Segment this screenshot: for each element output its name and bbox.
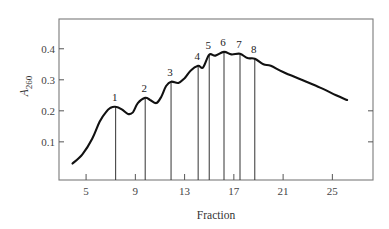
right-axis-ticks xyxy=(368,111,373,142)
x-tick-label: 13 xyxy=(179,185,191,197)
x-axis-ticks: 5913172125 xyxy=(83,174,338,197)
peak-labels: 12345678 xyxy=(112,36,257,103)
y-axis-label: A260 xyxy=(18,75,34,97)
y-axis-label-subscript: 260 xyxy=(24,75,34,89)
svg-text:A260: A260 xyxy=(18,75,34,97)
peak-6-label: 6 xyxy=(220,36,226,48)
x-tick-label: 17 xyxy=(228,185,240,197)
plot-frame xyxy=(59,19,373,180)
chart-canvas: 0.10.20.30.4 5913172125 12345678 Fractio… xyxy=(0,0,389,229)
x-tick-label: 25 xyxy=(327,185,339,197)
peak-5-label: 5 xyxy=(205,39,211,51)
x-axis-label: Fraction xyxy=(197,209,236,221)
peak-drop-lines xyxy=(116,52,255,180)
absorbance-curve xyxy=(73,52,348,164)
y-tick-label: 0.4 xyxy=(41,43,55,55)
peak-8-label: 8 xyxy=(251,43,257,55)
peak-2-label: 2 xyxy=(141,82,147,94)
y-tick-label: 0.3 xyxy=(41,74,55,86)
y-axis-ticks: 0.10.20.30.4 xyxy=(41,43,64,148)
y-tick-label: 0.2 xyxy=(41,105,55,117)
peak-3-label: 3 xyxy=(167,66,173,78)
peak-1-label: 1 xyxy=(112,91,118,103)
x-tick-label: 21 xyxy=(278,185,289,197)
y-tick-label: 0.1 xyxy=(41,136,55,148)
x-tick-label: 5 xyxy=(83,185,89,197)
x-tick-label: 9 xyxy=(133,185,139,197)
peak-4-label: 4 xyxy=(194,50,200,62)
peak-7-label: 7 xyxy=(236,38,242,50)
chart: 0.10.20.30.4 5913172125 12345678 Fractio… xyxy=(0,0,389,229)
